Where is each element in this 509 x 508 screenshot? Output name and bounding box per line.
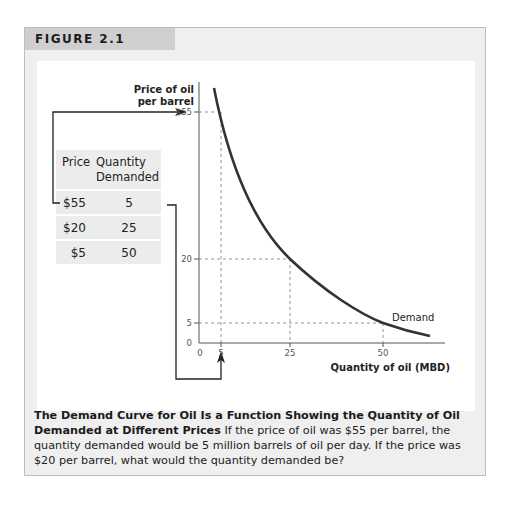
table-header-quantity: Quantity [96,155,146,169]
y-axis-label-line1: Price of oil [134,84,194,95]
demand-curve-label: Demand [392,312,434,323]
quantity-connector-line [167,205,221,379]
y-tick-55: $55 [176,107,192,117]
table-cell-price: $5 [71,246,86,260]
y-axis-label-line2: per barrel [138,96,194,107]
demand-curve [214,88,430,336]
table-cell-quantity: 5 [125,196,133,210]
chart-axes [194,82,445,347]
x-axis-label: Quantity of oil (MBD) [331,362,450,373]
table-cell-price: $55 [63,196,86,210]
x-tick-5: 5 [218,348,223,358]
y-tick-5: 5 [187,318,192,328]
y-tick-0: 0 [187,338,192,348]
table-cell-price: $20 [63,221,86,235]
demand-chart: Price Quantity Demanded $55 5 $20 25 $5 … [0,0,509,508]
demand-table: Price Quantity Demanded $55 5 $20 25 $5 … [56,150,161,264]
table-cell-quantity: 50 [121,246,136,260]
table-cell-quantity: 25 [121,221,136,235]
table-header-demanded: Demanded [96,170,159,184]
x-tick-0: 0 [197,348,202,358]
table-header-price: Price [62,155,90,169]
x-tick-25: 25 [285,348,296,358]
y-tick-20: 20 [181,254,192,264]
x-tick-50: 50 [378,348,389,358]
